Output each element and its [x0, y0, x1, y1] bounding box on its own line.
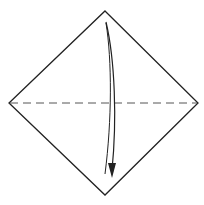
origami-diagram — [0, 0, 204, 205]
